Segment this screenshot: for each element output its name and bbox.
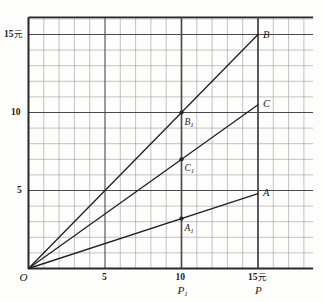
- series-label-a: A: [263, 188, 269, 199]
- data-lines: [29, 35, 259, 269]
- origin-label: O: [20, 272, 28, 283]
- y-axis-tick-5: 5: [17, 186, 22, 196]
- y-axis-tick-15: 15元: [4, 30, 23, 40]
- series-label-b: B: [263, 30, 269, 41]
- x-axis-annotation-p1: P1: [178, 285, 188, 296]
- x-axis-tick-10: 10: [176, 273, 186, 283]
- x-axis-tick-5: 5: [102, 273, 107, 283]
- axis-lines: [29, 17, 314, 268]
- x-axis-annotation-p: P: [255, 285, 262, 296]
- x-axis-tick-15: 15元: [248, 273, 267, 283]
- chart-container: 15元 10 5 O 5 10 15元 P1 P B C A B1 C1 A1: [0, 0, 323, 302]
- point-label-c1: C1: [185, 164, 195, 174]
- grid-major-lines: [29, 17, 314, 268]
- point-label-a1: A1: [185, 224, 194, 234]
- grid-minor-lines: [29, 17, 314, 268]
- point-label-b1: B1: [185, 118, 194, 128]
- series-label-c: C: [263, 99, 270, 110]
- chart-plot-svg: [0, 0, 323, 302]
- y-axis-tick-10: 10: [11, 108, 21, 118]
